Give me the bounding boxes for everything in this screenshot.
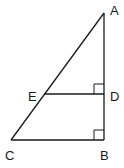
right-angle-marker-b [94,130,104,140]
label-c: C [5,148,14,163]
segment-ac [11,13,104,140]
label-e: E [28,89,37,104]
triangle-diagram: A D E C B [0,0,124,168]
right-angle-marker-d [94,84,104,94]
label-b: B [100,148,109,163]
label-d: D [110,89,119,104]
label-a: A [110,3,119,18]
